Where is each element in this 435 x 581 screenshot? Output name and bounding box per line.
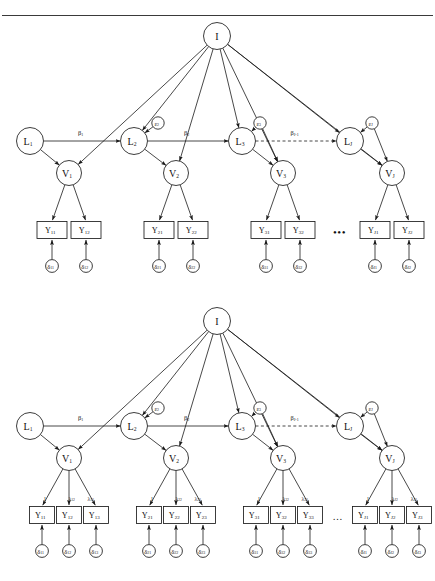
- label-beta-J-1: βJ-1: [291, 129, 299, 137]
- label-intercept-I: I: [215, 316, 218, 327]
- edge-V2-to-Y1: [159, 185, 171, 220]
- edge-V3-to-Y1: [266, 185, 278, 220]
- edge-I-to-L2: [142, 47, 208, 131]
- edge-eps-to-L2: [145, 127, 153, 133]
- edge-eps-to-L4: [360, 127, 367, 133]
- edge-I-to-L3: [220, 49, 239, 128]
- panel-bottom: IL1V1L2V2L3V3LJVJε2ε3εJβ1β2βJ-1Y11δ11Y12…: [17, 308, 432, 558]
- edge-L1-to-V1: [40, 150, 59, 166]
- edge-eps-to-L2: [145, 412, 153, 418]
- edge-L3-to-V3: [253, 149, 274, 165]
- edge-L4-to-V4: [361, 149, 382, 165]
- label-loading-32: λ32: [283, 496, 290, 503]
- edge-eps3-to-V3: [263, 414, 278, 447]
- edge-L2-to-V2: [145, 434, 166, 450]
- edge-I-to-L3: [220, 334, 239, 413]
- edge-V1-to-Y2: [73, 185, 85, 220]
- edge-V4-to-Y1: [375, 185, 387, 220]
- label-beta-2: β2: [184, 129, 189, 137]
- label-loading-one-1: 1: [44, 496, 47, 502]
- edge-eps-to-L4: [360, 412, 367, 418]
- label-loading-12: λ12: [69, 496, 76, 503]
- label-loading-J2: λJ2: [392, 496, 398, 503]
- label-loading-22: λ22: [176, 496, 183, 503]
- label-beta-1: β1: [78, 414, 83, 422]
- path-diagram-svg: IL1V1L2V2L3V3LJVJε2ε3εJβ1β2βJ-1Y11δ11Y12…: [0, 0, 435, 581]
- edge-L4-to-V4: [361, 434, 382, 450]
- figure-canvas: IL1V1L2V2L3V3LJVJε2ε3εJβ1β2βJ-1Y11δ11Y12…: [0, 0, 435, 581]
- edge-eps3-to-V3: [263, 129, 278, 162]
- edge-V1-to-Y1: [52, 185, 64, 220]
- edge-L3-to-V3: [253, 434, 274, 450]
- ellipsis-indicator: •••: [333, 226, 346, 238]
- edge-V4-to-Y2: [396, 185, 408, 220]
- edge-V2-to-Y2: [180, 185, 192, 220]
- edge-epsJ-to-VJ: [374, 129, 387, 162]
- edge-epsJ-to-VJ: [374, 414, 387, 447]
- edge-L2-to-V2: [145, 149, 166, 165]
- edge-L1-to-V1: [40, 435, 59, 451]
- panel-top: IL1V1L2V2L3V3LJVJε2ε3εJβ1β2βJ-1Y11δ11Y12…: [17, 23, 425, 273]
- edge-I-to-L2: [142, 332, 208, 416]
- label-loading-one-4: 1: [367, 496, 370, 502]
- label-beta-1: β1: [78, 129, 83, 137]
- label-loading-one-3: 1: [258, 496, 261, 502]
- ellipsis-indicator: …: [333, 511, 343, 522]
- edge-eps-to-L3: [252, 412, 256, 416]
- edge-eps-to-L3: [252, 127, 256, 131]
- edge-V3-to-Y2: [287, 185, 299, 220]
- label-intercept-I: I: [215, 31, 218, 42]
- label-beta-2: β2: [184, 414, 189, 422]
- label-loading-one-2: 1: [151, 496, 154, 502]
- label-beta-J-1: βJ-1: [291, 414, 299, 422]
